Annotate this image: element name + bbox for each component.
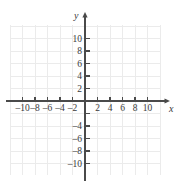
x-axis-tick-label: –2: [67, 103, 78, 113]
y-axis-tick-label: –4: [72, 121, 83, 131]
y-axis-tick-label: –10: [67, 159, 83, 169]
y-axis-tick-label: 8: [77, 46, 82, 56]
x-axis-tick-label: 6: [120, 103, 125, 113]
x-axis-tick-label: –8: [29, 103, 40, 113]
x-axis-label: x: [168, 103, 174, 114]
y-axis-label: y: [73, 10, 79, 21]
y-axis-tick-label: –8: [72, 146, 83, 156]
x-axis-tick-label: –10: [14, 103, 30, 113]
y-axis-tick-label: 10: [73, 34, 83, 44]
coordinate-grid-figure: –10–8–6–4–2246810 108642–4–6–8–10 x y: [0, 0, 178, 185]
x-axis-tick-label: 10: [143, 103, 153, 113]
x-axis-tick-label: –4: [54, 103, 65, 113]
figure-background: [0, 0, 178, 185]
y-axis-tick-label: 6: [77, 59, 82, 69]
coordinate-plane-svg: –10–8–6–4–2246810 108642–4–6–8–10 x y: [0, 0, 178, 185]
x-axis-tick-label: 4: [108, 103, 113, 113]
x-axis-tick-label: 2: [95, 103, 100, 113]
y-axis-tick-label: 2: [77, 84, 82, 94]
y-axis-tick-label: 4: [77, 71, 82, 81]
x-axis-tick-label: 8: [133, 103, 138, 113]
x-axis-tick-label: –6: [42, 103, 53, 113]
y-axis-tick-label: –6: [72, 134, 83, 144]
